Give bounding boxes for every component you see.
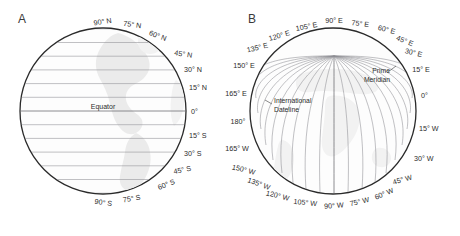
lon-label-105w: 105° W (293, 197, 318, 208)
globe-a: Equator 90° N 75° N 60° N 45° N 30° N 15… (20, 16, 207, 209)
prime-meridian-label-line2: Meridian (364, 76, 390, 83)
lon-label-45w: 45° W (392, 173, 414, 187)
lon-label-150w: 150° W (231, 162, 256, 177)
lon-label-165w: 165° W (225, 144, 249, 153)
lat-label-45s: 45° S (173, 164, 192, 176)
lon-label-180: 180° (231, 117, 246, 126)
lon-label-75e: 75° E (351, 18, 370, 29)
lon-label-15e: 15° E (412, 65, 430, 74)
globe-b: Prime Meridian International Dateline 90… (225, 16, 439, 211)
lat-label-90n: 90° N (93, 16, 112, 28)
lon-label-15w: 15° W (419, 124, 439, 133)
lon-label-30w: 30° W (414, 154, 434, 163)
international-dateline-label-line1: International (274, 97, 312, 104)
lon-label-60e: 60° E (377, 23, 397, 36)
lon-label-60w: 60° W (373, 186, 395, 202)
lat-label-30s: 30° S (184, 149, 202, 158)
lat-label-0: 0° (191, 107, 198, 116)
lat-label-75n: 75° N (123, 19, 142, 30)
lat-label-30n: 30° N (184, 65, 202, 74)
lon-label-120e: 120° E (268, 28, 291, 43)
lon-label-165e: 165° E (225, 89, 247, 98)
lat-label-15n: 15° N (189, 83, 207, 92)
lon-label-30e: 30° E (404, 46, 423, 59)
prime-meridian-label-line1: Prime (372, 67, 390, 74)
international-dateline-label-line2: Dateline (274, 106, 299, 113)
lon-label-150e: 150° E (233, 61, 255, 70)
lat-label-75s: 75° S (122, 193, 141, 205)
lat-label-90s: 90° S (94, 197, 113, 208)
lon-label-75w: 75° W (349, 195, 370, 208)
lon-label-90w: 90° W (324, 200, 344, 210)
lat-label-60s: 60° S (156, 177, 176, 192)
lon-label-0: 0° (421, 91, 428, 100)
lon-label-135w: 135° W (246, 175, 272, 192)
lon-label-135e: 135° E (246, 41, 269, 55)
lon-label-90e: 90° E (325, 16, 343, 25)
lat-label-45n: 45° N (174, 48, 193, 60)
figure-canvas: A B (0, 0, 460, 236)
lat-label-15s: 15° S (189, 131, 207, 140)
equator-label: Equator (91, 103, 116, 111)
globes-svg: Equator 90° N 75° N 60° N 45° N 30° N 15… (0, 0, 460, 236)
lat-label-60n: 60° N (148, 28, 168, 43)
